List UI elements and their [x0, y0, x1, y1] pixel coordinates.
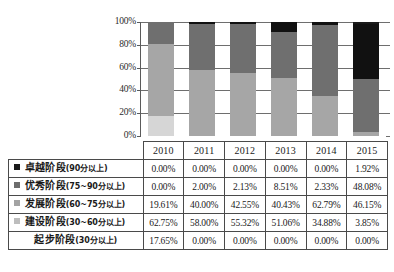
bar-stack [353, 22, 379, 136]
bar-column [189, 22, 215, 136]
data-table-wrapper: 201020112012201320142015 卓越阶段(90分以上)0.00… [8, 141, 388, 250]
table-column-header: 2013 [265, 142, 306, 160]
bar-segment [189, 22, 215, 24]
table-cell-value: 0.00% [184, 232, 225, 250]
table-cell-value: 0.00% [184, 160, 225, 178]
bar-column [148, 22, 174, 136]
table-row-label: 起步阶段(30分以上) [9, 232, 144, 250]
table-cell-value: 1.92% [347, 160, 388, 178]
table-cell-value: 2.00% [184, 178, 225, 196]
bar-segment [230, 22, 256, 24]
table-cell-value: 19.61% [143, 196, 184, 214]
series-name-range: (30分以上) [75, 236, 117, 245]
table-cell-value: 0.00% [225, 232, 266, 250]
table-row: 优秀阶段(75~90分以上)0.00%2.00%2.13%8.51%2.33%4… [9, 178, 388, 196]
series-name-main: 发展阶段 [25, 198, 66, 209]
bar-segment [271, 32, 297, 78]
table-cell-value: 0.00% [347, 232, 388, 250]
y-axis-tick-label: 20% [92, 108, 136, 118]
series-name-main: 起步阶段 [34, 234, 75, 245]
table-row-label: 建设阶段(30~60分以上) [9, 214, 144, 232]
y-axis-tick-mark-right [386, 136, 390, 137]
table-head: 201020112012201320142015 [9, 142, 388, 160]
y-axis-tick-mark-right [386, 68, 390, 69]
legend-swatch-icon [14, 218, 20, 224]
bar-segment [353, 132, 379, 136]
legend-swatch-icon [14, 164, 20, 170]
figure-stacked-bar-with-table: 100%80%60%40%20%0% 201020112012201320142… [0, 0, 394, 272]
bar-segment [230, 73, 256, 136]
bar-segment [353, 24, 379, 79]
y-axis-tick-mark-right [386, 90, 390, 91]
bar-segment [189, 70, 215, 136]
table-cell-value: 55.32% [225, 214, 266, 232]
table-cell-value: 62.75% [143, 214, 184, 232]
y-axis-tick-mark [137, 136, 141, 137]
y-axis-tick-label: 80% [92, 40, 136, 50]
table-column-header: 2015 [347, 142, 388, 160]
bar-segment [353, 79, 379, 132]
series-name-range: (90分以上) [66, 164, 108, 173]
bars-layer [140, 22, 386, 136]
y-axis-tick-label: 100% [92, 17, 136, 27]
table-cell-value: 34.88% [306, 214, 347, 232]
table-row: 起步阶段(30分以上)17.65%0.00%0.00%0.00%0.00%0.0… [9, 232, 388, 250]
table-cell-value: 8.51% [265, 178, 306, 196]
bar-segment [312, 25, 338, 97]
table-cell-value: 40.43% [265, 196, 306, 214]
table-cell-value: 2.33% [306, 178, 347, 196]
table-row: 发展阶段(60~75分以上)19.61%40.00%42.55%40.43%62… [9, 196, 388, 214]
table-cell-value: 48.08% [347, 178, 388, 196]
table-cell-value: 0.00% [306, 160, 347, 178]
chart-plot-area: 100%80%60%40%20%0% [0, 8, 394, 142]
series-name-range: (30~60分以上) [66, 218, 125, 227]
y-axis-tick-label: 60% [92, 63, 136, 73]
table-cell-value: 0.00% [306, 232, 347, 250]
bar-stack [230, 22, 256, 136]
table-row: 卓越阶段(90分以上)0.00%0.00%0.00%0.00%0.00%1.92… [9, 160, 388, 178]
bar-segment [148, 116, 174, 136]
bar-segment [271, 78, 297, 136]
data-table: 201020112012201320142015 卓越阶段(90分以上)0.00… [8, 141, 388, 250]
y-axis-tick-mark-right [386, 113, 390, 114]
bar-segment [148, 22, 174, 44]
table-row: 建设阶段(30~60分以上)62.75%58.00%55.32%51.06%34… [9, 214, 388, 232]
series-name-main: 优秀阶段 [25, 180, 66, 191]
table-cell-value: 3.85% [347, 214, 388, 232]
table-cell-value: 51.06% [265, 214, 306, 232]
y-axis-tick-labels: 100%80%60%40%20%0% [96, 22, 140, 136]
table-header-row: 201020112012201320142015 [9, 142, 388, 160]
bar-column [271, 22, 297, 136]
series-name-range: (75~90分以上) [66, 182, 125, 191]
table-cell-value: 46.15% [347, 196, 388, 214]
table-cell-value: 62.79% [306, 196, 347, 214]
bar-column [353, 22, 379, 136]
table-cell-value: 42.55% [225, 196, 266, 214]
table-cell-value: 0.00% [225, 160, 266, 178]
bar-column [230, 22, 256, 136]
table-body: 卓越阶段(90分以上)0.00%0.00%0.00%0.00%0.00%1.92… [9, 160, 388, 250]
bar-column [312, 22, 338, 136]
table-cell-value: 17.65% [143, 232, 184, 250]
table-row-label: 优秀阶段(75~90分以上) [9, 178, 144, 196]
bar-segment [312, 22, 338, 25]
bar-segment [148, 44, 174, 116]
table-column-header: 2012 [225, 142, 266, 160]
bar-segment [312, 96, 338, 136]
legend-swatch-icon [14, 200, 20, 206]
table-column-header: 2014 [306, 142, 347, 160]
y-axis-tick-mark-right [386, 45, 390, 46]
table-row-label: 发展阶段(60~75分以上) [9, 196, 144, 214]
y-axis-tick-mark-right [386, 22, 390, 23]
table-corner-cell [9, 142, 144, 160]
legend-swatch-icon [14, 182, 20, 188]
table-cell-value: 40.00% [184, 196, 225, 214]
table-cell-value: 0.00% [265, 160, 306, 178]
table-column-header: 2010 [143, 142, 184, 160]
bar-stack [271, 22, 297, 136]
y-axis-tick-label: 40% [92, 85, 136, 95]
series-name-main: 卓越阶段 [25, 162, 66, 173]
series-name-range: (60~75分以上) [66, 200, 125, 209]
bar-stack [148, 22, 174, 136]
table-cell-value: 0.00% [143, 178, 184, 196]
